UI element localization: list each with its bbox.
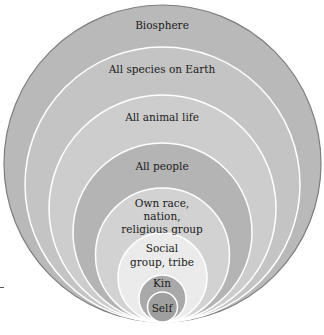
label-all-species: All species on Earth [108,63,216,75]
label-social-group-line1: Social [146,242,179,254]
label-social-group-line2: group, tribe [130,256,194,268]
label-own-race-line3: religious group [121,223,203,235]
label-own-race-line2: nation, [143,210,180,222]
label-biosphere: Biosphere [135,19,189,31]
label-kin: Kin [153,277,171,289]
label-all-people: All people [134,160,188,172]
label-own-race-line1: Own race, [135,197,189,209]
label-self: Self [152,302,174,314]
margin-tick-mark [0,287,4,288]
moral-circles-diagram: Biosphere All species on Earth All anima… [0,0,324,335]
label-all-animal-life: All animal life [124,111,199,123]
